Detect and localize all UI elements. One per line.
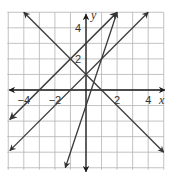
x-tick-label: −4	[18, 94, 31, 106]
x-axis-label: x	[158, 93, 165, 107]
coordinate-graph: x y −4−22424	[0, 0, 173, 183]
x-tick-label: 2	[114, 94, 120, 106]
x-tick-label: −2	[49, 94, 62, 106]
y-axis-label: y	[90, 8, 97, 22]
y-tick-label: 2	[75, 53, 81, 65]
y-tick-label: 4	[75, 22, 81, 34]
x-tick-label: 4	[145, 94, 151, 106]
